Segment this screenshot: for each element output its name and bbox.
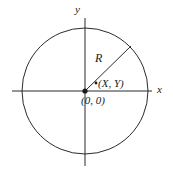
origin-coordinates-label: (0, 0) xyxy=(81,95,105,106)
y-axis-label: y xyxy=(75,4,80,15)
x-axis-label: x xyxy=(157,84,162,95)
circle-diagram: y x R (X, Y) (0, 0) xyxy=(0,0,173,179)
point-dot xyxy=(95,82,98,85)
radius-label: R xyxy=(95,52,102,64)
point-coordinates-label: (X, Y) xyxy=(98,78,124,89)
origin-dot xyxy=(82,88,87,93)
diagram-canvas xyxy=(0,0,173,179)
